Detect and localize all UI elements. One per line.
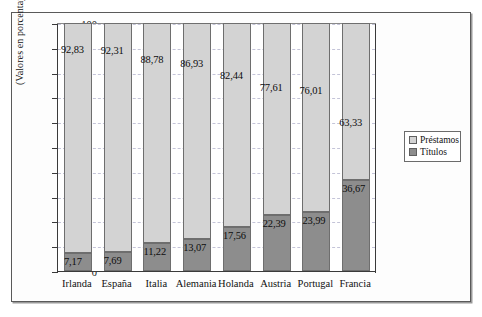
data-label-titulos: 13,07 bbox=[183, 243, 206, 254]
data-label-prestamos: 77,61 bbox=[260, 83, 283, 94]
legend-label-prestamos: Préstamos bbox=[420, 135, 459, 145]
bar-segment-prestamos[interactable] bbox=[342, 23, 370, 180]
data-label-titulos: 11,22 bbox=[143, 247, 166, 258]
data-label-titulos: 22,39 bbox=[263, 219, 286, 230]
bar-column[interactable] bbox=[104, 23, 132, 271]
y-axis-tick bbox=[52, 148, 58, 149]
legend-label-titulos: Títulos bbox=[420, 147, 447, 157]
data-label-titulos: 7,17 bbox=[64, 257, 82, 268]
chart-figure: (Valores en porcentajes) 010203040506070… bbox=[0, 0, 482, 317]
y-axis-tick bbox=[52, 24, 58, 25]
plot-area: 92,837,1792,317,6988,7811,2286,9313,0782… bbox=[57, 24, 375, 272]
x-axis-tick-label: Francia bbox=[320, 278, 390, 289]
y-axis-tick bbox=[52, 272, 58, 273]
bar-column[interactable] bbox=[342, 23, 370, 271]
bar-segment-prestamos[interactable] bbox=[263, 23, 291, 215]
y-axis-tick bbox=[52, 173, 58, 174]
y-axis-tick bbox=[52, 247, 58, 248]
legend-swatch-prestamos-icon bbox=[409, 136, 417, 144]
data-label-prestamos: 86,93 bbox=[180, 59, 203, 70]
data-label-prestamos: 82,44 bbox=[220, 71, 243, 82]
data-label-titulos: 17,56 bbox=[223, 231, 246, 242]
data-label-titulos: 7,69 bbox=[104, 256, 122, 267]
y-axis-tick bbox=[52, 123, 58, 124]
legend-item-titulos[interactable]: Títulos bbox=[409, 147, 457, 157]
data-label-prestamos: 88,78 bbox=[140, 55, 163, 66]
y-axis-label: (Valores en porcentajes) bbox=[14, 0, 25, 85]
data-label-titulos: 23,99 bbox=[302, 216, 325, 227]
bar-segment-prestamos[interactable] bbox=[183, 23, 211, 239]
legend-swatch-titulos-icon bbox=[409, 148, 417, 156]
data-label-prestamos: 92,83 bbox=[61, 45, 84, 56]
bar-segment-prestamos[interactable] bbox=[302, 23, 330, 212]
data-label-prestamos: 92,31 bbox=[101, 46, 124, 57]
data-label-prestamos: 63,33 bbox=[339, 118, 362, 129]
data-label-prestamos: 76,01 bbox=[299, 86, 322, 97]
y-axis-tick bbox=[52, 222, 58, 223]
y-axis-tick bbox=[52, 198, 58, 199]
bar-segment-prestamos[interactable] bbox=[64, 23, 92, 253]
y-axis-tick bbox=[52, 49, 58, 50]
legend-item-prestamos[interactable]: Préstamos bbox=[409, 135, 457, 145]
bar-column[interactable] bbox=[263, 23, 291, 271]
data-label-titulos: 36,67 bbox=[342, 184, 365, 195]
bar-column[interactable] bbox=[302, 23, 330, 271]
bar-segment-prestamos[interactable] bbox=[104, 23, 132, 252]
y-axis-tick bbox=[52, 98, 58, 99]
y-axis-caption-container: (Valores en porcentajes) bbox=[0, 0, 40, 290]
bar-column[interactable] bbox=[64, 23, 92, 271]
plot-right-border bbox=[375, 24, 376, 273]
chart-legend: Préstamos Títulos bbox=[404, 131, 461, 162]
y-axis-tick bbox=[52, 74, 58, 75]
bar-segment-prestamos[interactable] bbox=[223, 23, 251, 227]
